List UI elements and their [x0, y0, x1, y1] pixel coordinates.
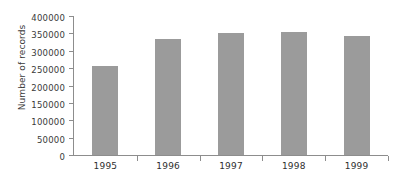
y-axis-tick-label: 250000 [31, 65, 65, 75]
x-axis-line [73, 155, 388, 156]
bar [218, 33, 244, 155]
bar [281, 32, 307, 155]
y-axis-tick-label: 300000 [31, 48, 65, 58]
bar [92, 66, 118, 155]
y-axis-tick-label: 350000 [31, 30, 65, 40]
x-axis-label: 1998 [262, 161, 325, 171]
x-axis-label: 1997 [200, 161, 263, 171]
bar-chart: Number of records 0500001000001500002000… [0, 0, 398, 175]
y-axis-tick-label: 150000 [31, 100, 65, 110]
x-axis-tick [388, 156, 389, 161]
x-axis-label: 1996 [137, 161, 200, 171]
x-axis-label: 1999 [325, 161, 388, 171]
y-axis-title: Number of records [14, 0, 30, 155]
bar [344, 36, 370, 155]
y-axis-tick-label: 400000 [31, 13, 65, 23]
y-axis-tick-label: 100000 [31, 117, 65, 127]
y-axis-tick-label: 0 [59, 152, 65, 162]
bar [155, 39, 181, 155]
x-axis-label: 1995 [74, 161, 137, 171]
plot-area [74, 16, 388, 155]
y-axis-tick-label: 200000 [31, 83, 65, 93]
y-axis-tick: 0 [69, 155, 74, 156]
y-axis-tick-label: 50000 [37, 135, 65, 145]
